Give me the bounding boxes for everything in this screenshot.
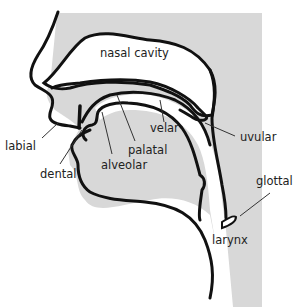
label-velar: velar (150, 121, 179, 135)
label-labial: labial (5, 139, 36, 153)
label-uvular: uvular (240, 130, 277, 144)
label-palatal: palatal (128, 143, 167, 157)
vocal-tract-diagram: nasal cavity labial dental alveolar pala… (0, 0, 296, 307)
label-dental: dental (40, 167, 76, 181)
label-nasal-cavity: nasal cavity (100, 46, 169, 60)
label-larynx: larynx (212, 233, 248, 247)
leader-labial (42, 123, 58, 138)
upper-teeth (79, 106, 80, 128)
label-glottal: glottal (256, 174, 293, 188)
label-alveolar: alveolar (101, 158, 147, 172)
